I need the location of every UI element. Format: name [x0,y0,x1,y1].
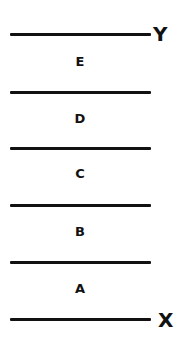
layer-label-d: D [60,112,100,126]
boundary-line-x [10,318,151,321]
layer-label-e: E [60,55,100,69]
boundary-line [10,147,151,150]
boundary-line [10,261,151,264]
layer-label-b: B [60,225,100,239]
top-axis-label: Y [153,24,167,44]
boundary-line [10,204,151,207]
boundary-line-y [10,33,151,36]
layer-label-a: A [60,282,100,296]
layer-label-c: C [60,167,100,181]
stratigraphy-diagram: Y E D C B A X [0,0,182,347]
bottom-axis-label: X [158,310,173,330]
boundary-line [10,91,151,94]
